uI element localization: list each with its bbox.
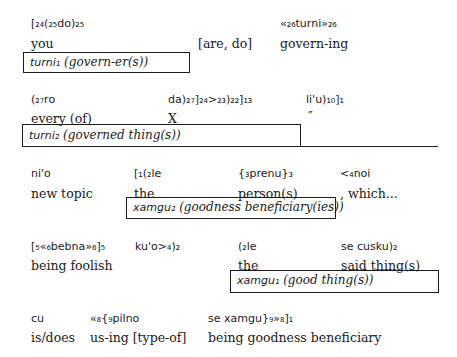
place-box-turni2: turni₂ (governed thing(s)) [22, 124, 301, 147]
place-label-turni1: turni₁ (govern-er(s)) [30, 55, 148, 70]
lojban-word-bebna: [₅«₆bebna»₆]₅ [31, 240, 105, 253]
lojban-word-liu: li'u)₁₀]₁ [306, 93, 344, 106]
lojban-word-da: da)₂₇]₂₄>₂₃)₂₂]₁₃ [168, 93, 252, 106]
gloss-is-does: is/does [31, 330, 75, 345]
lojban-word-se-cusku: se cusku)₂ [341, 240, 397, 253]
gloss-being-goodness-beneficiary: being goodness beneficiary [208, 330, 381, 345]
gloss-being-foolish: being foolish [31, 258, 113, 273]
lojban-word-cu: cu [31, 312, 44, 325]
lojban-word-le: [₁(₂le [134, 167, 161, 180]
lojban-word-turni: «₂₆turni»₂₆ [280, 17, 337, 30]
gloss-are-do: [are, do] [198, 36, 252, 51]
lojban-word-noi: <₄noi [340, 167, 370, 180]
gloss-which: , which... [340, 186, 398, 201]
lojban-word-le-2: (₂le [238, 240, 257, 253]
gloss-governing: govern-ing [280, 36, 348, 51]
place-box-xamgu1: xamgu₁ (good thing(s)) [230, 270, 439, 293]
lojban-word-kuo: ku'o>₄)₂ [135, 240, 180, 253]
place-label-xamgu2: xamgu₂ (goodness beneficiary(ies)) [133, 200, 344, 215]
gloss-new-topic: new topic [31, 186, 93, 201]
lojban-word-do: [₂₄(₂₅do)₂₅ [31, 17, 84, 30]
gloss-you: you [31, 36, 54, 51]
gloss-ditto: ″ [308, 109, 313, 124]
gloss-using: us-ing [type-of] [90, 330, 186, 345]
lojban-word-ro: (₂₇ro [31, 93, 55, 106]
place-label-turni2: turni₂ (governed thing(s)) [29, 128, 181, 143]
place-box-xamgu2: xamgu₂ (goodness beneficiary(ies)) [126, 197, 336, 219]
lojban-word-pilno: «₈{₉pilno [90, 312, 139, 325]
place-label-xamgu1: xamgu₁ (good thing(s)) [237, 273, 373, 288]
section-divider-line [22, 146, 438, 147]
lojban-word-se-xamgu: se xamgu}₉»₈]₁ [208, 312, 293, 325]
place-box-turni1: turni₁ (govern-er(s)) [23, 52, 190, 73]
lojban-word-prenu: {₃prenu}₃ [238, 167, 293, 180]
lojban-word-nio: ni'o [31, 167, 51, 180]
